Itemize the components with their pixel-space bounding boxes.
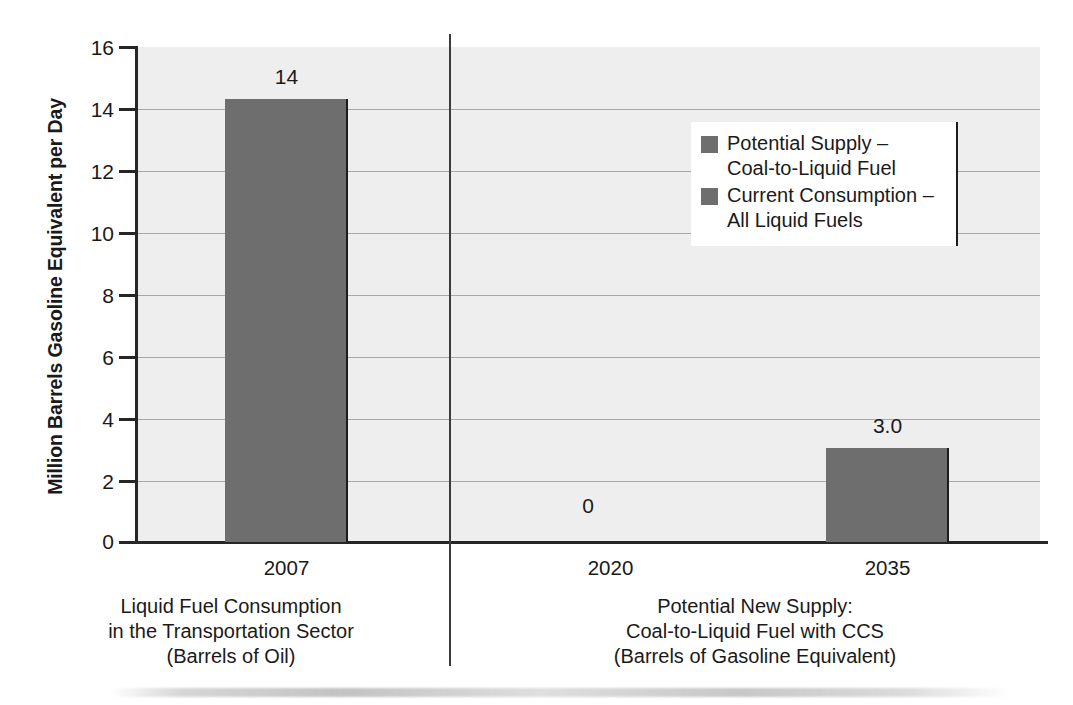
y-tick-label-10: 10 [74,223,114,244]
bar-value-2035: 3.0 [827,415,948,436]
chart-legend: Potential Supply – Coal-to-Liquid Fuel C… [691,122,958,246]
y-tick-mark-4 [119,418,136,421]
y-tick-mark-0 [119,541,136,544]
group-caption-left: Liquid Fuel Consumption in the Transport… [36,594,426,669]
y-tick-mark-16 [119,46,136,49]
x-axis-label-2035: 2035 [827,557,948,578]
x-axis-label-2007: 2007 [226,557,347,578]
y-tick-mark-14 [119,108,136,111]
legend-item-potential-supply: Potential Supply – Coal-to-Liquid Fuel [701,131,956,181]
y-tick-mark-2 [119,480,136,483]
legend-swatch-icon [701,188,718,205]
bar-chart-figure: Million Barrels Gasoline Equivalent per … [0,0,1073,705]
y-tick-mark-6 [119,356,136,359]
bar-value-2020: 0 [568,495,608,516]
y-tick-label-2: 2 [74,471,114,492]
y-tick-label-4: 4 [74,409,114,430]
x-axis-label-2020: 2020 [550,557,671,578]
y-tick-label-14: 14 [74,99,114,120]
y-axis-title: Million Barrels Gasoline Equivalent per … [44,17,67,577]
y-tick-label-0: 0 [74,531,114,552]
legend-label-potential-supply: Potential Supply – Coal-to-Liquid Fuel [727,131,896,181]
group-divider [449,34,451,666]
legend-item-current-consumption: Current Consumption – All Liquid Fuels [701,183,956,233]
group-caption-right: Potential New Supply: Coal-to-Liquid Fue… [520,594,990,669]
legend-label-current-consumption: Current Consumption – All Liquid Fuels [727,183,934,233]
y-tick-label-6: 6 [74,347,114,368]
bar-2035 [826,448,949,542]
y-tick-label-16: 16 [74,37,114,58]
bar-2007 [225,99,348,542]
scan-artifact [110,688,1010,697]
legend-swatch-icon [701,136,718,153]
bar-value-2007: 14 [226,66,347,87]
y-tick-label-8: 8 [74,285,114,306]
y-tick-mark-12 [119,170,136,173]
y-tick-mark-8 [119,294,136,297]
y-tick-label-12: 12 [74,161,114,182]
y-tick-mark-10 [119,232,136,235]
